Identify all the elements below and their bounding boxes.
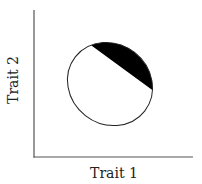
x-axis-label: Trait 1 bbox=[0, 165, 202, 181]
y-axis-label-text: Trait 2 bbox=[5, 56, 21, 104]
trait-diagram: Trait 2 Trait 1 bbox=[0, 0, 202, 184]
diagram-canvas bbox=[0, 0, 202, 184]
